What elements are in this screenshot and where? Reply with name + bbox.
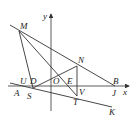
point-label-e: E	[66, 76, 73, 86]
x-axis-label: x	[122, 87, 127, 97]
point-label-m: M	[19, 21, 28, 31]
point-label-k: K	[108, 107, 116, 117]
point-label-o: O	[53, 76, 60, 86]
point-label-u: U	[20, 76, 27, 86]
point-label-t: T	[73, 97, 79, 107]
y-axis-label: y	[42, 11, 47, 21]
point-label-n: N	[77, 55, 85, 65]
geometry-diagram: y x M N B U D O E A S V J T K	[0, 0, 138, 130]
point-label-s: S	[27, 91, 32, 101]
point-label-j: J	[112, 88, 117, 98]
point-label-d: D	[29, 76, 37, 86]
point-label-a: A	[13, 88, 20, 98]
point-label-b: B	[113, 76, 119, 86]
point-label-v: V	[79, 87, 86, 97]
line-ak	[10, 83, 112, 107]
